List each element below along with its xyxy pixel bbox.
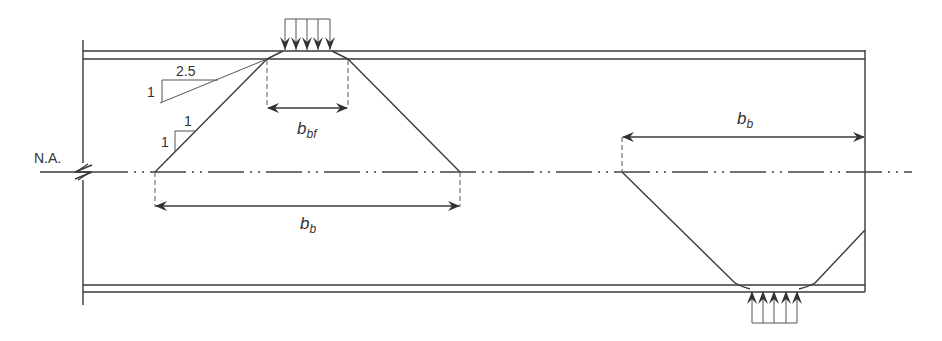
- slope-triangle-1-1: 1 1: [161, 113, 196, 151]
- slope-run-label-2: 1: [184, 113, 192, 129]
- top-bb-dimension: bb: [155, 172, 460, 236]
- top-dispersion-lines: [155, 51, 460, 172]
- top-bb-label: bb: [300, 214, 316, 236]
- slope-triangle-2-5: 2.5 1: [147, 59, 267, 103]
- bbf-label: bbf: [297, 119, 318, 141]
- beam-diagram: N.A. 2.5 1 1 1 bbf: [0, 0, 942, 341]
- bottom-bb-dimension: bb: [622, 109, 864, 172]
- neutral-axis-label: N.A.: [34, 150, 61, 166]
- slope-run-label: 2.5: [176, 63, 196, 79]
- bbf-dimension: bbf: [267, 60, 348, 141]
- slope-rise-label: 1: [147, 84, 155, 100]
- top-load-arrows: [285, 19, 330, 50]
- bottom-load-arrows: [752, 291, 797, 323]
- bottom-bb-label: bb: [737, 109, 753, 131]
- slope-rise-label-2: 1: [161, 134, 169, 150]
- bottom-dispersion-lines: [622, 172, 865, 289]
